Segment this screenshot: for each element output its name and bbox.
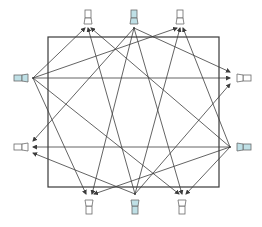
speaker-body: [177, 10, 183, 18]
speaker-icon-left-upper: [14, 74, 28, 82]
speaker-horn: [22, 143, 28, 151]
connection-arrow: [33, 28, 85, 78]
speaker-body: [132, 206, 138, 214]
speaker-body: [86, 206, 92, 214]
speaker-horn: [85, 200, 93, 206]
speaker-icon-right-lower: [237, 143, 251, 151]
room-outline: [48, 37, 219, 187]
source-point: [32, 77, 34, 79]
speaker-horn: [22, 74, 28, 82]
connection-arrow: [33, 28, 177, 78]
speaker-icon-bottom-center: [131, 200, 139, 214]
connection-arrow: [183, 28, 230, 147]
speaker-body: [85, 10, 91, 18]
source-point: [229, 146, 231, 148]
connection-arrow: [91, 28, 230, 147]
connection-arrow: [135, 84, 230, 194]
source-point: [134, 193, 136, 195]
speaker-horn: [237, 74, 243, 82]
speaker-horn: [84, 18, 92, 24]
connection-arrow: [135, 28, 180, 194]
speaker-body: [243, 144, 251, 150]
speaker-body: [14, 75, 22, 81]
speaker-diagram: [0, 0, 262, 227]
speaker-body: [131, 10, 137, 18]
speaker-icon-bottom-right: [178, 200, 186, 214]
speaker-body: [243, 75, 251, 81]
speaker-horn: [176, 18, 184, 24]
speaker-icon-bottom-left: [85, 200, 93, 214]
speaker-icon-top-right: [176, 10, 184, 24]
diagram-canvas: [0, 0, 262, 227]
speaker-body: [14, 144, 22, 150]
speaker-horn: [178, 200, 186, 206]
speaker-icon-top-center: [130, 10, 138, 24]
connection-arrow: [134, 28, 230, 72]
connection-arrow: [134, 28, 182, 194]
speaker-body: [179, 206, 185, 214]
speaker-icon-left-lower: [14, 143, 28, 151]
speaker-horn: [130, 18, 138, 24]
connection-arrow: [33, 78, 179, 194]
connection-arrow: [33, 78, 86, 194]
speaker-horn: [237, 143, 243, 151]
source-point: [133, 27, 135, 29]
speaker-icon-top-left: [84, 10, 92, 24]
speaker-icon-right-upper: [237, 74, 251, 82]
speaker-horn: [131, 200, 139, 206]
